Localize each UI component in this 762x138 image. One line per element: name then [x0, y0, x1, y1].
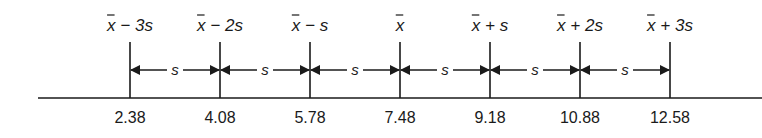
interval-label: s: [441, 61, 449, 78]
xbar-symbol: x: [556, 16, 566, 35]
tick-value: 4.08: [204, 109, 235, 126]
xbar-symbol: x: [106, 16, 116, 35]
interval-arrow: s: [401, 61, 489, 78]
interval-arrow: s: [221, 61, 309, 78]
tick-label: x + 3s: [646, 16, 693, 35]
tick-label: x + s: [471, 16, 509, 35]
interval-label: s: [261, 61, 269, 78]
interval-arrow: s: [311, 61, 399, 78]
tick-label: x − s: [291, 16, 329, 35]
interval-label: s: [171, 61, 179, 78]
xbar-symbol: x: [291, 16, 301, 35]
tick-label: x + 2s: [556, 16, 603, 35]
xbar-symbol: x: [471, 16, 481, 35]
sd-number-line-diagram: x − 3s2.38x − 2s4.08x − s5.78x7.48x + s9…: [0, 0, 762, 138]
interval-label: s: [531, 61, 539, 78]
xbar-symbol: x: [395, 16, 405, 35]
tick-value: 7.48: [384, 109, 415, 126]
tick-value: 12.58: [650, 109, 690, 126]
tick-value: 5.78: [294, 109, 325, 126]
xbar-symbol: x: [196, 16, 206, 35]
tick-value: 2.38: [114, 109, 145, 126]
tick-label: x − 3s: [106, 16, 153, 35]
interval-label: s: [621, 61, 629, 78]
interval-arrow: s: [131, 61, 219, 78]
tick-label: x: [395, 16, 405, 35]
tick-value: 9.18: [474, 109, 505, 126]
xbar-symbol: x: [646, 16, 656, 35]
tick-label: x − 2s: [196, 16, 243, 35]
interval-arrow: s: [491, 61, 579, 78]
interval-arrow: s: [581, 61, 669, 78]
tick-value: 10.88: [560, 109, 600, 126]
interval-label: s: [351, 61, 359, 78]
